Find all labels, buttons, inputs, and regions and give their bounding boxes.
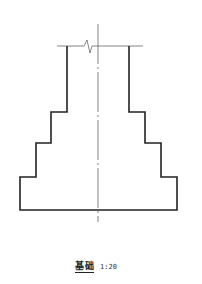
break-line xyxy=(57,40,143,53)
drawing-scale: 1:20 xyxy=(100,263,117,271)
foundation-outline xyxy=(20,46,177,210)
drawing-caption: 基础 1:20 xyxy=(75,255,117,273)
foundation-drawing xyxy=(0,0,202,284)
drawing-title: 基础 xyxy=(75,259,94,273)
